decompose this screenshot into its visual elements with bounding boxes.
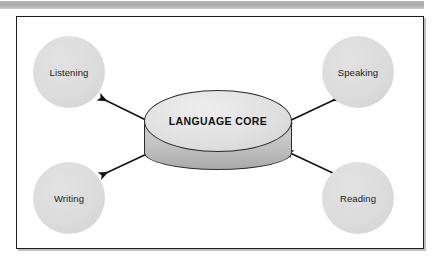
node-listening[interactable]: Listening: [33, 36, 105, 108]
node-writing[interactable]: Writing: [33, 162, 105, 234]
language-core-node[interactable]: LANGUAGE CORE: [144, 90, 292, 176]
node-listening-label: Listening: [50, 67, 89, 78]
node-writing-label: Writing: [54, 193, 84, 204]
diagram-canvas: LANGUAGE CORE Listening Speaking Writing…: [0, 0, 439, 265]
node-speaking-label: Speaking: [338, 67, 378, 78]
top-gray-banner: [0, 1, 424, 9]
node-speaking[interactable]: Speaking: [322, 36, 394, 108]
core-cylinder-top: LANGUAGE CORE: [144, 90, 292, 152]
node-reading-label: Reading: [340, 193, 376, 204]
core-label: LANGUAGE CORE: [169, 115, 268, 127]
node-reading[interactable]: Reading: [322, 162, 394, 234]
